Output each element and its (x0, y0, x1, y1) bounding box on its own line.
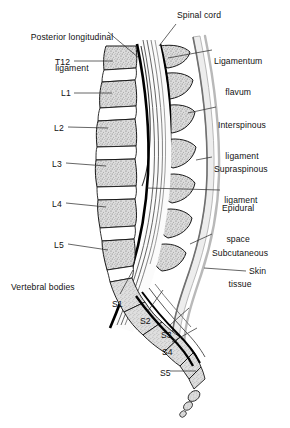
sct-line-1: Subcutaneous (212, 248, 268, 258)
sct-line-2: tissue (212, 279, 268, 289)
vertebra-label-l3: L3 (52, 159, 62, 169)
vertebra-label-s1: S1 (112, 299, 123, 309)
eps-line-1: Epidural (222, 203, 254, 213)
vertebra-label-l1: L1 (61, 88, 71, 98)
pll-line-2: ligament (12, 63, 132, 73)
vertebra-label-l2: L2 (54, 123, 64, 133)
label-vertebral-bodies: Vertebral bodies (11, 282, 75, 292)
vertebra-label-t12: T12 (55, 57, 70, 67)
sacrum (110, 278, 205, 418)
lf-line-2: flavum (214, 87, 262, 97)
pll-line-1: Posterior longitudinal (12, 32, 132, 42)
vertebra-label-s5: S5 (160, 368, 171, 378)
label-ligamentum-flavum: Ligamentum flavum (214, 36, 262, 107)
vertebra-label-s3: S3 (161, 330, 172, 340)
label-posterior-longitudinal-ligament: Posterior longitudinal ligament (12, 12, 132, 83)
vertebra-label-l4: L4 (52, 199, 62, 209)
label-skin: Skin (249, 266, 266, 276)
vertebra-label-s4: S4 (162, 347, 173, 357)
vertebra-label-s2: S2 (140, 316, 151, 326)
isl-line-1: Interspinous (218, 120, 266, 130)
vertebra-label-l5: L5 (54, 240, 64, 250)
ssl-line-1: Supraspinous (214, 164, 268, 174)
label-spinal-cord: Spinal cord (177, 10, 221, 20)
lf-line-1: Ligamentum (214, 56, 262, 66)
label-subcutaneous-tissue: Subcutaneous tissue (212, 228, 268, 299)
